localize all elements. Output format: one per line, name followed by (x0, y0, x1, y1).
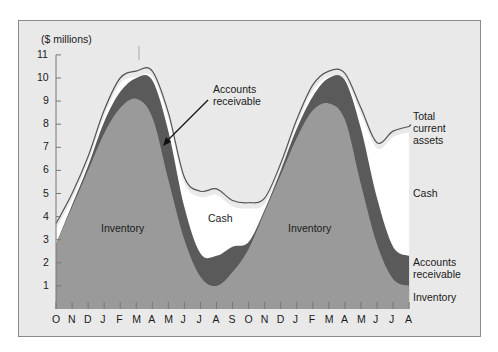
y-tick-label: 4 (43, 210, 49, 222)
y-tick-label: 3 (43, 233, 49, 245)
x-tick-label: J (373, 313, 378, 325)
legend-cash: Cash (413, 187, 438, 199)
x-tick-label: M (357, 313, 366, 325)
x-tick-label: N (261, 313, 269, 325)
legend-total-line1: Total (413, 110, 435, 122)
ar-callout-line2: receivable (213, 95, 261, 107)
x-tick-label: M (164, 313, 173, 325)
x-tick-label: M (325, 313, 334, 325)
cash-inner-label: Cash (208, 212, 233, 224)
x-tick-label: J (389, 313, 394, 325)
y-tick-label: 9 (43, 94, 49, 106)
x-tick-label: S (229, 313, 236, 325)
x-tick-label: O (52, 313, 60, 325)
y-tick-label: 1 (43, 279, 49, 291)
legend-ar-line2: receivable (413, 268, 461, 280)
x-tick-label: A (148, 313, 155, 325)
y-tick-label: 11 (37, 48, 48, 60)
y-tick-label: 8 (43, 117, 49, 129)
ar-callout-line1: Accounts (213, 83, 256, 95)
legend-total-line2: current (413, 122, 446, 134)
inventory-right-label: Inventory (288, 222, 331, 234)
ar-callout-arrow (165, 100, 208, 143)
inventory-left-label: Inventory (101, 222, 144, 234)
y-tick-label: 5 (43, 187, 49, 199)
legend-ar-line1: Accounts (413, 256, 456, 268)
x-tick-label: A (405, 313, 412, 325)
x-tick-label: M (132, 313, 141, 325)
y-axis-unit-label: ($ millions) (41, 33, 92, 45)
y-tick-label: 6 (43, 163, 49, 175)
x-tick-label: O (245, 313, 253, 325)
x-tick-label: N (68, 313, 76, 325)
legend-total-line3: assets (413, 134, 443, 146)
y-tick-label: 2 (43, 256, 49, 268)
x-tick-label: A (213, 313, 220, 325)
y-tick-label: 10 (37, 71, 49, 83)
x-tick-label: F (116, 313, 122, 325)
y-tick-label: 7 (43, 140, 49, 152)
x-tick-label: D (277, 313, 285, 325)
x-tick-label: J (180, 313, 185, 325)
x-tick-label: J (293, 313, 298, 325)
x-tick-label: J (100, 313, 105, 325)
x-tick-label: J (196, 313, 201, 325)
x-tick-label: A (341, 313, 348, 325)
x-tick-label: F (309, 313, 315, 325)
legend-inventory: Inventory (413, 291, 456, 303)
x-tick-label: D (84, 313, 92, 325)
